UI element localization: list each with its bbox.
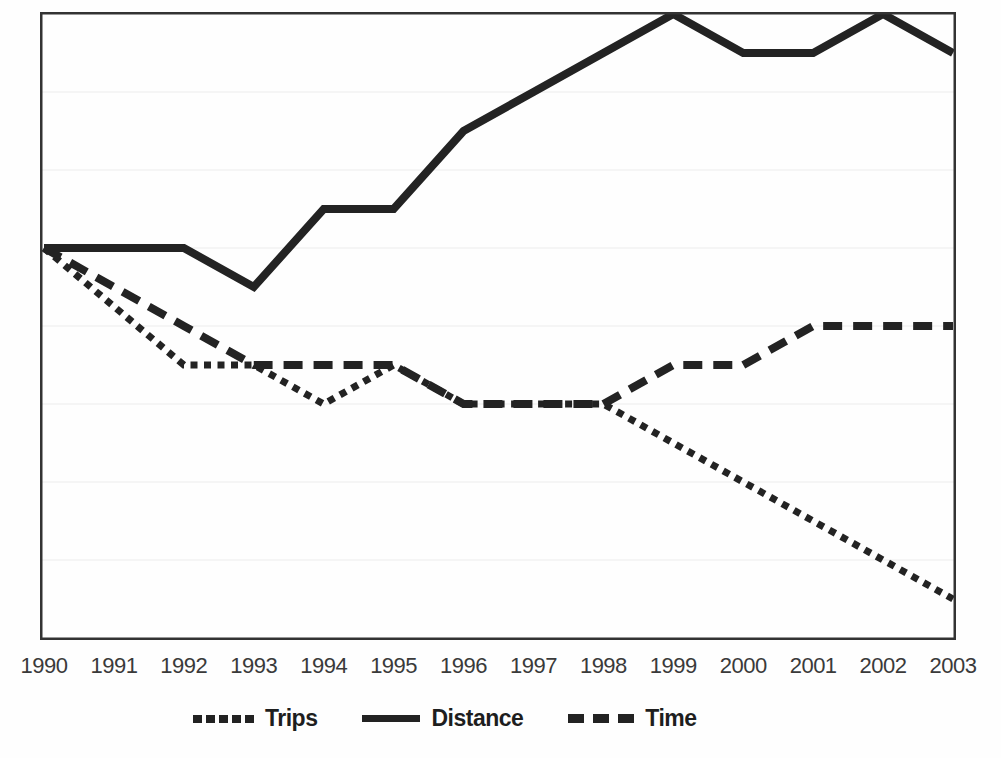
- x-axis-label-2003: 2003: [930, 653, 977, 679]
- x-axis-label-2001: 2001: [790, 653, 837, 679]
- plot-area: [40, 12, 956, 640]
- trips-dotted-line-swatch: [193, 715, 254, 723]
- trips-distance-time-line-chart: 1990199119921993199419951996199719981999…: [0, 0, 1001, 758]
- x-axis-label-1996: 1996: [440, 653, 487, 679]
- x-axis-label-1995: 1995: [370, 653, 417, 679]
- legend: Trips Distance Time: [193, 705, 697, 732]
- x-axis-label-1998: 1998: [580, 653, 627, 679]
- x-axis: 1990199119921993199419951996199719981999…: [0, 653, 1001, 679]
- x-axis-label-1997: 1997: [510, 653, 557, 679]
- legend-item-time: Time: [568, 705, 696, 732]
- x-axis-label-1991: 1991: [90, 653, 137, 679]
- distance-solid-line-swatch: [362, 715, 420, 722]
- x-axis-label-1993: 1993: [230, 653, 277, 679]
- legend-item-trips: Trips: [193, 705, 317, 732]
- legend-item-distance: Distance: [362, 705, 523, 732]
- time-dashed-line-swatch: [568, 714, 634, 723]
- legend-label-trips: Trips: [265, 705, 317, 732]
- x-axis-label-1990: 1990: [21, 653, 68, 679]
- x-axis-label-1992: 1992: [160, 653, 207, 679]
- distance-line: [44, 14, 953, 287]
- trips-line: [44, 248, 953, 599]
- x-axis-label-1994: 1994: [300, 653, 347, 679]
- x-axis-label-2000: 2000: [720, 653, 767, 679]
- x-axis-label-2002: 2002: [860, 653, 907, 679]
- legend-label-time: Time: [645, 705, 696, 732]
- legend-label-distance: Distance: [431, 705, 523, 732]
- x-axis-label-1999: 1999: [650, 653, 697, 679]
